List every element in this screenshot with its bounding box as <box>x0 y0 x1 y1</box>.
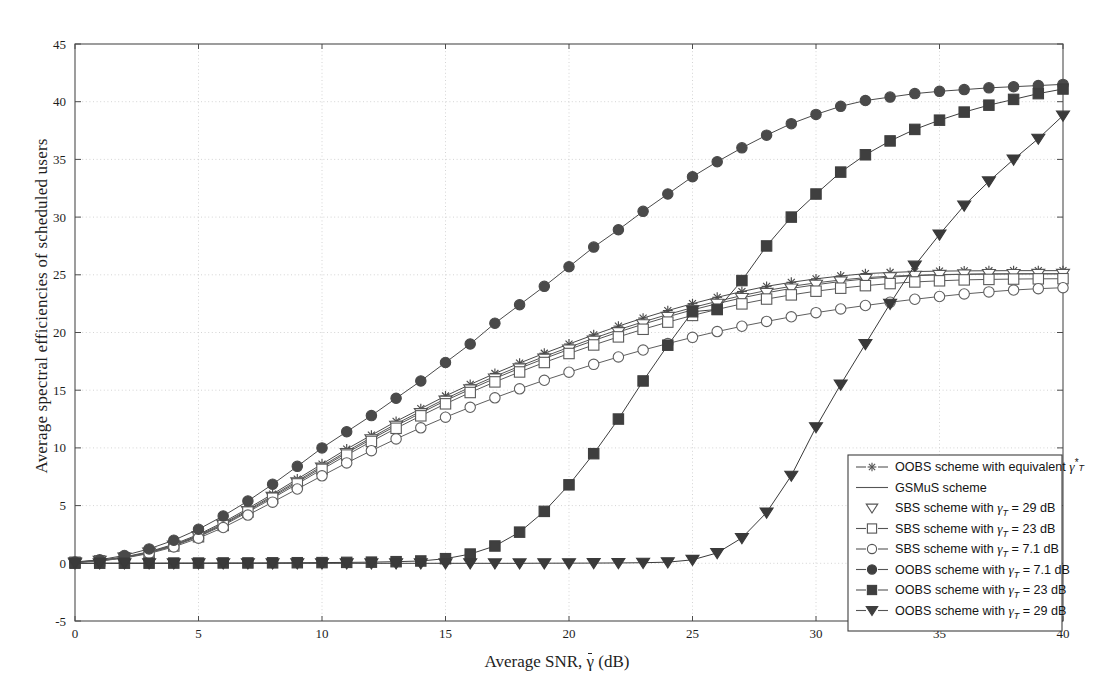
y-tick-label: 30 <box>53 210 66 225</box>
legend-label-1: GSMuS scheme <box>895 481 987 495</box>
x-tick-label: 15 <box>439 626 452 641</box>
x-tick-label: 0 <box>72 626 79 641</box>
y-tick-label: -5 <box>55 614 66 629</box>
legend-label-0: OOBS scheme with equivalent γ*T <box>895 457 1086 474</box>
y-tick-label: 45 <box>53 37 66 52</box>
y-tick-label: 35 <box>53 152 66 167</box>
chart-canvas: 0510152025303540-5051015202530354045 OOB… <box>0 0 1114 693</box>
x-tick-label: 30 <box>810 626 823 641</box>
y-tick-label: 15 <box>53 383 66 398</box>
x-tick-label: 5 <box>195 626 202 641</box>
figure-root: Average spectral efficiencies of schedul… <box>0 0 1114 693</box>
x-tick-label: 25 <box>686 626 699 641</box>
y-tick-label: 20 <box>53 325 66 340</box>
y-tick-label: 0 <box>60 556 67 571</box>
y-tick-label: 5 <box>60 498 67 513</box>
y-tick-label: 25 <box>53 267 66 282</box>
x-tick-label: 20 <box>563 626 576 641</box>
y-tick-label: 10 <box>53 440 66 455</box>
x-tick-label: 10 <box>316 626 329 641</box>
y-tick-label: 40 <box>53 94 66 109</box>
legend-box[interactable]: OOBS scheme with equivalent γ*TGSMuS sch… <box>848 455 1086 631</box>
